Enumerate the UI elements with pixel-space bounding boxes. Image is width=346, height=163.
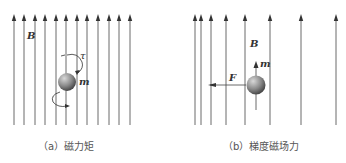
caption-a: （a）磁力矩	[38, 138, 94, 153]
magnetic-particle-b	[247, 76, 266, 95]
field-lines-b	[193, 14, 338, 125]
magnetic-particle-a	[58, 73, 76, 91]
force-label: F	[229, 72, 236, 83]
field-label-b: B	[250, 38, 258, 49]
moment-label-b: m	[260, 58, 271, 69]
field-label-a: B	[27, 30, 35, 41]
torque-label: τ	[80, 50, 86, 61]
caption-b: （b）梯度磁场力	[223, 138, 299, 153]
moment-label-a: m	[79, 76, 90, 87]
